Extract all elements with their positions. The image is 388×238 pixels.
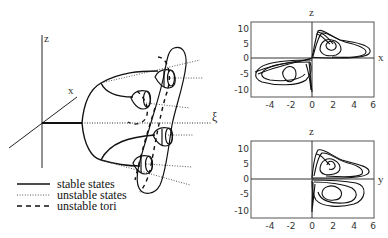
svg-text:-4: -4 [266, 221, 275, 231]
x-tick-labels: -4 -2 0 2 4 6 [266, 221, 377, 231]
svg-text:-2: -2 [287, 221, 296, 231]
svg-text:-4: -4 [266, 100, 275, 110]
legend: stable states unstable states unstable t… [17, 177, 127, 213]
svg-text:4: 4 [351, 221, 357, 231]
plot-y-z: z y 10 5 0 -5 -10 -4 -2 0 2 4 6 [234, 125, 384, 231]
stable-branch-lower [82, 123, 140, 166]
svg-text:0: 0 [309, 100, 315, 110]
svg-text:-10: -10 [234, 206, 249, 216]
svg-text:5: 5 [243, 39, 249, 49]
xi-axis-label: ξ [212, 110, 218, 124]
stable-branch-upper-sub [101, 83, 133, 97]
svg-text:2: 2 [330, 221, 336, 231]
svg-text:2: 2 [330, 100, 336, 110]
svg-text:0: 0 [309, 221, 315, 231]
svg-text:10: 10 [238, 24, 250, 34]
svg-text:-5: -5 [240, 69, 249, 79]
plot-horizontal-axis-label: x [378, 51, 384, 63]
x-tick-labels: -4 -2 0 2 4 6 [266, 100, 377, 110]
attractor-trajectory [255, 30, 370, 92]
plot-horizontal-axis-label: y [378, 173, 384, 185]
attractor-trajectory [312, 150, 369, 212]
bifurcation-diagram: z x ξ [9, 32, 218, 193]
svg-text:-2: -2 [287, 100, 296, 110]
plot-x-z: z x 10 5 0 -5 -10 -4 -2 0 2 4 6 [234, 6, 384, 110]
plot-vertical-axis-label: z [309, 6, 314, 18]
svg-text:0: 0 [243, 174, 249, 184]
y-tick-labels: 10 5 0 -5 -10 [234, 24, 249, 95]
svg-text:4: 4 [351, 100, 357, 110]
svg-text:6: 6 [370, 221, 376, 231]
svg-text:6: 6 [370, 100, 376, 110]
svg-text:-10: -10 [234, 85, 249, 95]
svg-text:5: 5 [243, 159, 249, 169]
z-axis-label: z [44, 32, 49, 44]
svg-text:0: 0 [243, 53, 249, 63]
plot-vertical-axis-label: z [309, 125, 314, 137]
svg-text:-5: -5 [240, 189, 249, 199]
x-axis-label: x [68, 84, 74, 96]
svg-text:10: 10 [238, 144, 250, 154]
figure-canvas: z x ξ [0, 0, 388, 238]
y-tick-labels: 10 5 0 -5 -10 [234, 144, 249, 216]
legend-label-unstable-tori: unstable tori [57, 199, 117, 213]
